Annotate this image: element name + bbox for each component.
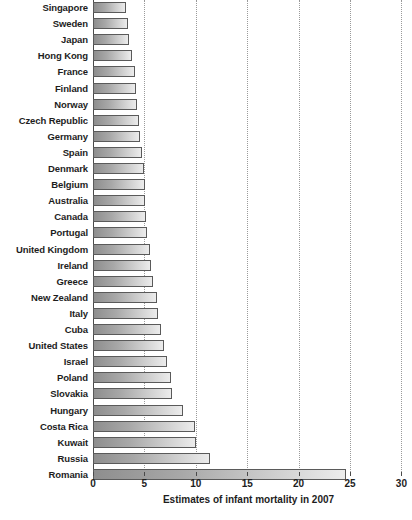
category-label-spain: Spain: [0, 147, 88, 158]
category-label-czech-republic: Czech Republic: [0, 115, 88, 126]
category-label-greece: Greece: [0, 276, 88, 287]
bar-australia[interactable]: [93, 195, 145, 206]
bar-hungary[interactable]: [93, 405, 183, 416]
category-label-hong-kong: Hong Kong: [0, 50, 88, 61]
tick-label-25: 25: [344, 478, 355, 489]
gridline-10: [196, 0, 197, 472]
category-label-russia: Russia: [0, 453, 88, 464]
tick-mark-10: [196, 472, 197, 476]
bar-new-zealand[interactable]: [93, 292, 157, 303]
tick-mark-5: [144, 472, 145, 476]
bar-slovakia[interactable]: [93, 388, 172, 399]
bar-united-states[interactable]: [93, 340, 164, 351]
tick-label-0: 0: [90, 478, 96, 489]
bar-singapore[interactable]: [93, 2, 126, 13]
bar-hong-kong[interactable]: [93, 50, 132, 61]
bar-finland[interactable]: [93, 83, 136, 94]
bar-belgium[interactable]: [93, 179, 145, 190]
category-label-portugal: Portugal: [0, 227, 88, 238]
bar-poland[interactable]: [93, 372, 171, 383]
category-label-france: France: [0, 66, 88, 77]
gridline-25: [350, 0, 351, 472]
tick-label-10: 10: [190, 478, 201, 489]
gridline-20: [299, 0, 300, 472]
category-label-united-states: United States: [0, 340, 88, 351]
category-label-denmark: Denmark: [0, 163, 88, 174]
bar-canada[interactable]: [93, 211, 146, 222]
tick-mark-30: [401, 472, 402, 476]
infant-mortality-bar-chart: SingaporeSwedenJapanHong KongFranceFinla…: [0, 0, 412, 520]
category-label-kuwait: Kuwait: [0, 437, 88, 448]
category-label-norway: Norway: [0, 99, 88, 110]
category-label-israel: Israel: [0, 356, 88, 367]
bar-russia[interactable]: [93, 453, 210, 464]
bar-israel[interactable]: [93, 356, 167, 367]
category-label-new-zealand: New Zealand: [0, 292, 88, 303]
bar-france[interactable]: [93, 66, 135, 77]
bar-germany[interactable]: [93, 131, 140, 142]
tick-mark-15: [247, 472, 248, 476]
category-label-ireland: Ireland: [0, 260, 88, 271]
category-label-belgium: Belgium: [0, 179, 88, 190]
tick-label-20: 20: [293, 478, 304, 489]
category-label-japan: Japan: [0, 34, 88, 45]
tick-mark-25: [350, 472, 351, 476]
bar-czech-republic[interactable]: [93, 115, 139, 126]
bar-costa-rica[interactable]: [93, 421, 195, 432]
bar-romania[interactable]: [93, 469, 346, 480]
category-label-sweden: Sweden: [0, 18, 88, 29]
bar-italy[interactable]: [93, 308, 158, 319]
category-label-italy: Italy: [0, 308, 88, 319]
bar-greece[interactable]: [93, 276, 153, 287]
bar-portugal[interactable]: [93, 227, 147, 238]
category-label-singapore: Singapore: [0, 2, 88, 13]
category-label-romania: Romania: [0, 469, 88, 480]
x-axis-title: Estimates of infant mortality in 2007: [93, 494, 404, 505]
bar-japan[interactable]: [93, 34, 129, 45]
tick-mark-0: [93, 472, 94, 476]
category-label-united-kingdom: United Kingdom: [0, 244, 88, 255]
bar-spain[interactable]: [93, 147, 142, 158]
tick-label-5: 5: [142, 478, 148, 489]
bar-norway[interactable]: [93, 99, 137, 110]
category-label-poland: Poland: [0, 372, 88, 383]
tick-label-15: 15: [242, 478, 253, 489]
bar-denmark[interactable]: [93, 163, 144, 174]
tick-mark-20: [299, 472, 300, 476]
category-label-costa-rica: Costa Rica: [0, 421, 88, 432]
category-label-slovakia: Slovakia: [0, 388, 88, 399]
bar-united-kingdom[interactable]: [93, 244, 150, 255]
bar-cuba[interactable]: [93, 324, 161, 335]
category-label-finland: Finland: [0, 83, 88, 94]
category-label-cuba: Cuba: [0, 324, 88, 335]
category-label-hungary: Hungary: [0, 405, 88, 416]
tick-label-30: 30: [396, 478, 407, 489]
bar-sweden[interactable]: [93, 18, 128, 29]
bar-kuwait[interactable]: [93, 437, 196, 448]
category-label-canada: Canada: [0, 211, 88, 222]
gridline-30: [401, 0, 402, 472]
gridline-15: [247, 0, 248, 472]
category-label-australia: Australia: [0, 195, 88, 206]
category-label-germany: Germany: [0, 131, 88, 142]
bar-ireland[interactable]: [93, 260, 151, 271]
